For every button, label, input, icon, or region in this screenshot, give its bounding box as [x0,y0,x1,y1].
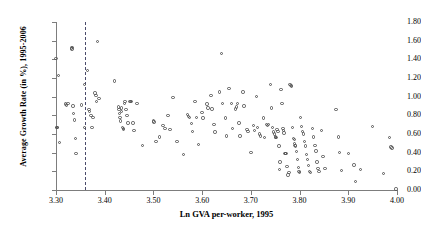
scatter-point [191,130,194,133]
scatter-point [323,167,326,170]
scatter-point [246,130,249,133]
x-tick-label: 3.90 [328,196,368,205]
x-tick-label: 3.40 [85,196,125,205]
scatter-point [259,134,262,137]
scatter-point [57,74,60,77]
y-tick-mark [52,115,57,116]
scatter-point [135,102,138,105]
scatter-point [304,144,307,147]
y-tick-label: 0.20 [373,167,421,175]
scatter-point [132,129,135,132]
plot-area [56,22,397,190]
scatter-point [163,127,166,130]
scatter-point [390,146,393,149]
x-tick-label: 3.80 [280,196,320,205]
y-tick-mark [52,153,57,154]
x-axis-line [56,190,398,191]
scatter-point [73,118,76,121]
scatter-point [241,90,244,93]
scatter-point [276,130,279,133]
scatter-point [131,121,134,124]
scatter-point [188,116,191,119]
scatter-point [123,100,126,103]
scatter-point [126,121,129,124]
scatter-point [287,171,290,174]
y-tick-label: 0.40 [373,149,421,157]
scatter-point [321,155,324,158]
y-tick-mark [52,171,57,172]
scatter-point [154,140,157,143]
scatter-point [90,126,93,129]
x-tick-mark [348,190,349,195]
scatter-point [119,119,122,122]
scatter-point [302,132,305,135]
scatter-point [309,171,312,174]
scatter-point [237,121,240,124]
y-tick-label: 1.80 [373,18,421,26]
x-tick-mark [202,190,203,195]
vertical-reference-line [85,22,86,190]
scatter-point [210,107,213,110]
x-tick-mark [105,190,106,195]
scatter-point [66,102,69,105]
x-tick-label: 3.70 [231,196,271,205]
scatter-point [313,144,316,147]
scatter-point [238,134,241,137]
scatter-point [74,152,77,155]
y-tick-label: 1.20 [373,74,421,82]
y-tick-mark [52,41,57,42]
scatter-point [80,103,83,106]
scatter-point [212,123,215,126]
y-tick-mark [52,97,57,98]
x-tick-label: 3.50 [133,196,173,205]
scatter-point [315,160,318,163]
scatter-point [352,163,355,166]
scatter-point [225,134,228,137]
scatter-point [200,111,203,114]
scatter-point [193,100,196,103]
scatter-point [284,152,287,155]
scatter-point [317,170,320,173]
scatter-point [278,160,281,163]
scatter-point [227,87,230,90]
scatter-point [282,131,285,134]
x-axis-title: Ln GVA per-worker, 1995 [56,209,397,219]
scatter-point [231,127,234,130]
scatter-point [91,116,94,119]
y-tick-label: 1.60 [373,37,421,45]
y-tick-label: 0.60 [373,130,421,138]
scatter-point [394,187,397,190]
scatter-point [97,97,100,100]
scatter-point [230,102,233,105]
scatter-point [125,114,128,117]
scatter-point [306,158,309,161]
x-tick-label: 3.30 [36,196,76,205]
scatter-point [235,105,238,108]
scatter-point [285,165,288,168]
x-tick-label: 4.00 [377,196,417,205]
scatter-point [311,127,314,130]
scatter-point [218,90,221,93]
y-tick-label: 1.00 [373,93,421,101]
y-axis-line [56,22,57,191]
scatter-point [224,116,227,119]
y-tick-mark [52,78,57,79]
scatter-point [71,104,74,107]
scatter-point [201,116,204,119]
y-axis-title: Average Growth Rate (in %), 1995-2006 [19,12,28,182]
scatter-point [54,57,57,60]
scatter-point [171,96,174,99]
y-tick-mark [52,134,57,135]
scatter-point [158,135,161,138]
scatter-point [314,149,317,152]
scatter-point [270,106,273,109]
scatter-point [382,172,385,175]
y-tick-label: 0.80 [373,111,421,119]
scatter-point [206,106,209,109]
x-tick-mark [56,190,57,195]
scatter-point [168,128,171,131]
y-tick-label: 1.40 [373,55,421,63]
scatter-point [312,135,315,138]
scatter-point [236,102,239,105]
scatter-point [262,116,265,119]
